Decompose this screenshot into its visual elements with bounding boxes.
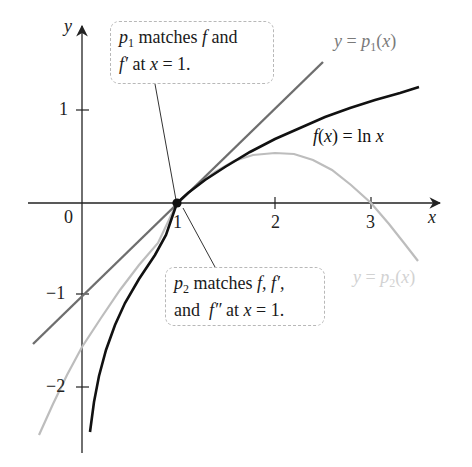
- x-symbol: x: [150, 54, 158, 74]
- text: at: [128, 54, 150, 74]
- y-tick-label-neg2: −2: [46, 376, 65, 397]
- callout-p2-leader: [183, 208, 215, 267]
- x-tick-label-3: 3: [366, 212, 375, 233]
- y-axis-label: y: [64, 16, 72, 37]
- f-curve-label: f(x) = ln x: [313, 126, 384, 147]
- text: = 1.: [158, 54, 191, 74]
- point-1-0: [172, 198, 181, 207]
- callout-p1-leader: [155, 84, 176, 200]
- x-axis-label: x: [428, 207, 436, 228]
- p1-curve-label: y = p1(x): [334, 31, 396, 55]
- text: and: [174, 300, 209, 320]
- p2-curve-label: y = p2(x): [353, 267, 415, 291]
- origin-label: 0: [64, 207, 73, 228]
- callout-p1-line1: p1 matches f and: [119, 27, 265, 54]
- f-list: f, f′,: [257, 273, 284, 293]
- y-tick-label-neg1: −1: [46, 283, 65, 304]
- text: at: [222, 300, 244, 320]
- x-tick-label-1: 1: [173, 212, 182, 233]
- callout-p2-line1: p2 matches f, f′,: [174, 273, 316, 300]
- x-symbol: x: [244, 300, 252, 320]
- y-tick-label-1: 1: [59, 99, 68, 120]
- text: and: [207, 27, 238, 47]
- axis-ticks: [76, 110, 371, 387]
- f-double-prime-symbol: f″: [209, 300, 222, 320]
- text: matches: [134, 27, 202, 47]
- p-symbol: p: [174, 273, 183, 293]
- text: = 1.: [252, 300, 285, 320]
- callout-p1: p1 matches f and f′ at x = 1.: [110, 21, 274, 84]
- text: matches: [189, 273, 257, 293]
- x-tick-label-2: 2: [271, 212, 280, 233]
- p-symbol: p: [119, 27, 128, 47]
- f-prime-symbol: f′: [119, 54, 128, 74]
- callout-p2-line2: and f″ at x = 1.: [174, 300, 316, 321]
- callout-p2: p2 matches f, f′, and f″ at x = 1.: [165, 267, 325, 326]
- callout-p1-line2: f′ at x = 1.: [119, 54, 265, 75]
